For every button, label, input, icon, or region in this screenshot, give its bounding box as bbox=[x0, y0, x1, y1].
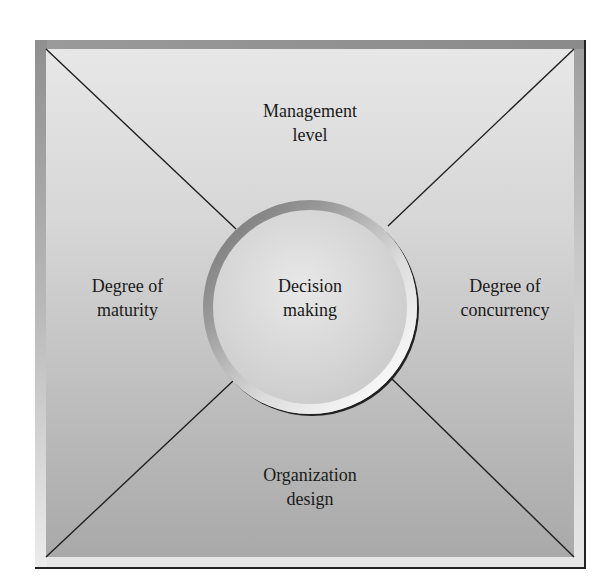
center-label-line-2: making bbox=[240, 298, 380, 322]
diagonal-bottom-right bbox=[391, 378, 574, 557]
top-label-line-1: Management bbox=[230, 99, 390, 123]
right-label: Degree of concurrency bbox=[425, 274, 585, 322]
diagonal-top-right bbox=[388, 49, 574, 226]
bottom-label: Organization design bbox=[230, 463, 390, 511]
left-label-line-2: maturity bbox=[60, 298, 195, 322]
bottom-label-line-2: design bbox=[230, 487, 390, 511]
diagonal-top-left bbox=[46, 49, 236, 229]
left-label-line-1: Degree of bbox=[60, 274, 195, 298]
right-label-line-2: concurrency bbox=[425, 298, 585, 322]
right-label-line-1: Degree of bbox=[425, 274, 585, 298]
center-label-line-1: Decision bbox=[240, 274, 380, 298]
top-label-line-2: level bbox=[230, 123, 390, 147]
left-label: Degree of maturity bbox=[60, 274, 195, 322]
top-label: Management level bbox=[230, 99, 390, 147]
diagonal-bottom-left bbox=[46, 381, 233, 557]
center-label: Decision making bbox=[240, 274, 380, 322]
bottom-label-line-1: Organization bbox=[230, 463, 390, 487]
